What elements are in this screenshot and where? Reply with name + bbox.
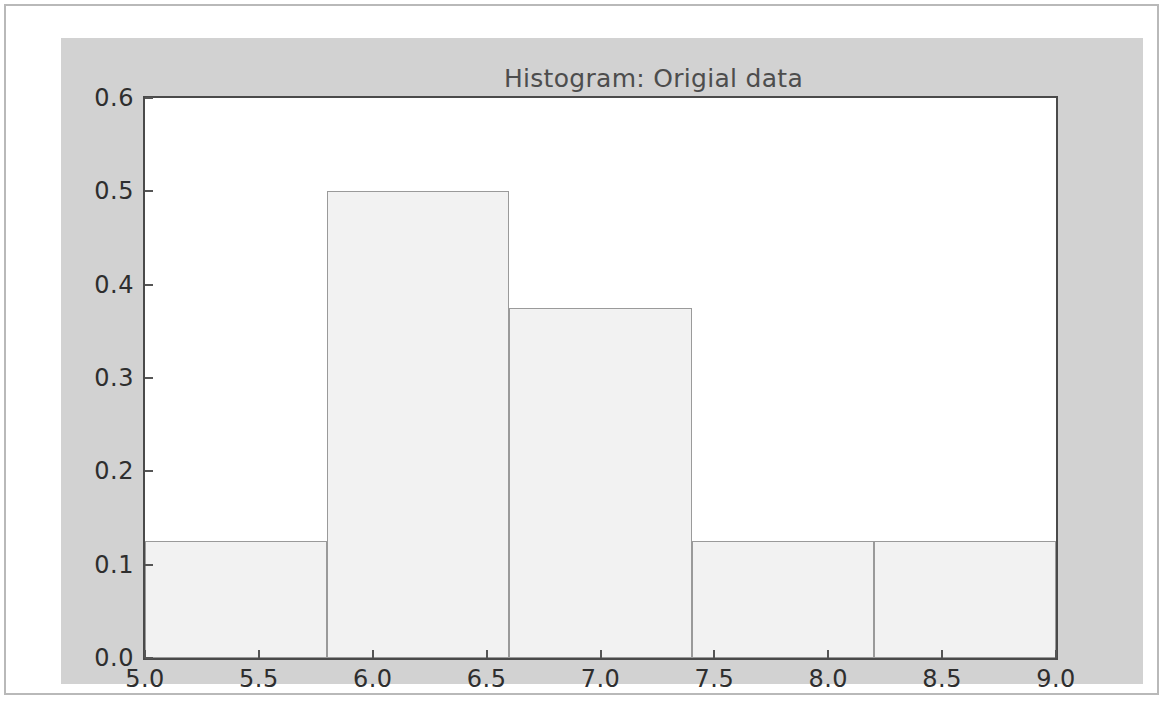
x-tick-label: 9.0 [1036, 665, 1076, 693]
x-tick-label: 7.0 [581, 665, 621, 693]
y-tick-label: 0.5 [94, 177, 134, 205]
chart-title: Histogram: Origial data [198, 64, 1109, 93]
x-tick-label: 5.0 [125, 665, 165, 693]
y-tick-label: 0.3 [94, 364, 134, 392]
y-tick-label: 0.4 [94, 271, 134, 299]
x-tick-label: 8.5 [922, 665, 962, 693]
y-tick-label: 0.2 [94, 457, 134, 485]
x-axis-tick-labels: 5.05.56.06.57.07.58.08.59.0 [145, 98, 1056, 658]
page-frame: Histogram: Origial data 0.00.10.20.30.40… [4, 4, 1159, 695]
x-tick-label: 6.5 [467, 665, 507, 693]
x-tick-label: 5.5 [239, 665, 279, 693]
x-tick-label: 8.0 [808, 665, 848, 693]
matplotlib-figure: Histogram: Origial data 0.00.10.20.30.40… [61, 38, 1143, 684]
y-tick-label: 0.1 [94, 551, 134, 579]
y-tick-label: 0.6 [94, 84, 134, 112]
x-tick-label: 7.5 [695, 665, 735, 693]
plot-axes: 0.00.10.20.30.40.50.6 5.05.56.06.57.07.5… [143, 96, 1058, 660]
x-tick-label: 6.0 [353, 665, 393, 693]
